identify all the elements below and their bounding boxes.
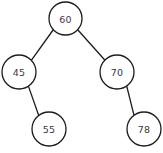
tree-edge-60-to-70 bbox=[78, 30, 106, 61]
nodes-group: 6045705578 bbox=[2, 2, 161, 146]
tree-node-label-60: 60 bbox=[59, 14, 72, 25]
tree-node-60[interactable]: 60 bbox=[49, 2, 82, 35]
tree-node-label-45: 45 bbox=[13, 67, 26, 78]
binary-tree-diagram: 6045705578 bbox=[0, 0, 163, 153]
tree-node-label-55: 55 bbox=[43, 124, 56, 135]
tree-node-70[interactable]: 70 bbox=[100, 55, 134, 89]
tree-node-45[interactable]: 45 bbox=[2, 55, 36, 89]
tree-node-label-78: 78 bbox=[138, 124, 151, 135]
tree-edge-45-to-55 bbox=[29, 86, 39, 116]
tree-svg-canvas: 6045705578 bbox=[0, 0, 163, 153]
tree-node-55[interactable]: 55 bbox=[32, 112, 66, 146]
tree-edge-70-to-78 bbox=[127, 86, 135, 116]
tree-node-78[interactable]: 78 bbox=[127, 112, 161, 146]
tree-edge-60-to-45 bbox=[31, 30, 53, 60]
tree-node-label-70: 70 bbox=[111, 67, 124, 78]
